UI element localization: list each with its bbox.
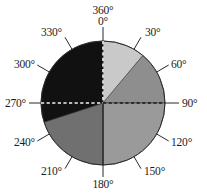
pie-slice-90-180 [103,103,165,165]
leader-210-icon [65,157,72,169]
label-0-deg: 0° [98,15,109,27]
label-90-deg: 90° [182,97,198,109]
leader-240-icon [37,134,49,141]
label-150-deg: 150° [144,165,166,177]
label-180-deg: 180° [92,178,114,190]
label-60-deg: 60° [171,58,187,70]
leader-30-icon [134,37,141,49]
label-30-deg: 30° [145,26,161,38]
leader-330-icon [65,37,72,49]
pie-chart-svg: 360° 0° 30° 60° 90° 120° 150° 180° 210° … [0,0,207,193]
label-270-deg: 270° [5,97,27,109]
leader-150-icon [134,157,141,169]
leader-300-icon [37,65,49,72]
label-300-deg: 300° [14,58,36,70]
label-330-deg: 330° [41,26,63,38]
pie-compass-figure: 360° 0° 30° 60° 90° 120° 150° 180° 210° … [0,0,207,193]
label-120-deg: 120° [171,136,193,148]
label-240-deg: 240° [14,136,36,148]
label-210-deg: 210° [41,165,63,177]
leader-60-icon [157,65,169,72]
leader-120-icon [157,134,169,141]
